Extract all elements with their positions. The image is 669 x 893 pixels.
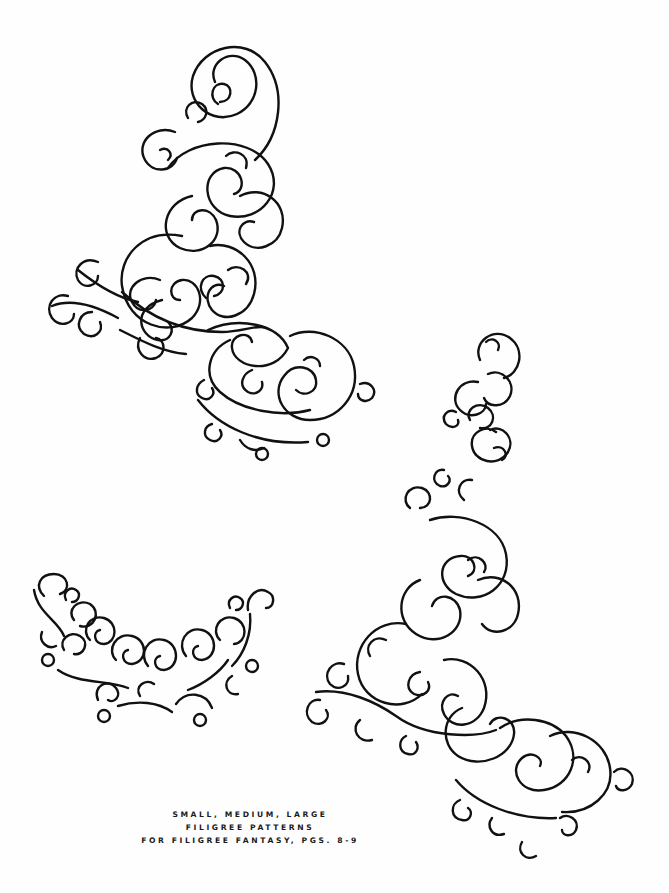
caption-line-1: SMALL, MEDIUM, LARGE	[120, 808, 380, 821]
filigree-artwork	[0, 0, 669, 893]
filigree-pattern-medium	[307, 334, 633, 858]
caption-line-2: FILIGREE PATTERNS	[120, 821, 380, 834]
filigree-pattern-small	[34, 574, 273, 726]
pattern-page: SMALL, MEDIUM, LARGE FILIGREE PATTERNS F…	[0, 0, 669, 893]
pattern-caption: SMALL, MEDIUM, LARGE FILIGREE PATTERNS F…	[120, 808, 380, 847]
filigree-pattern-large	[49, 47, 374, 460]
caption-line-3: FOR FILIGREE FANTASY, PGS. 8-9	[120, 834, 380, 847]
